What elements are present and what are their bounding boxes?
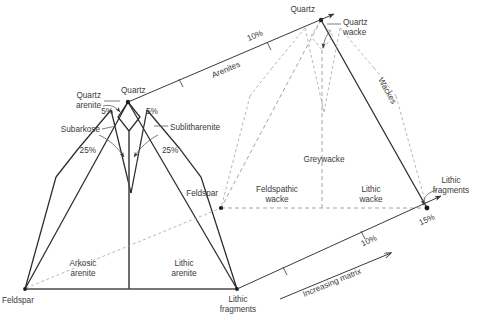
right-feldspathic-extend: [250, 68, 272, 96]
right-twentyfive-percent-label: 25%: [162, 146, 178, 155]
qfl-ternary-diagram: Quartz Quartz arenite Subarkose Sublitha…: [0, 0, 486, 320]
right-feldspathic-outer: [272, 28, 305, 68]
right-triangle-right-edge: [321, 20, 427, 208]
feldspathic-wacke-label-line2: wacke: [264, 195, 289, 204]
arenites-axis-label: Arenites: [210, 60, 241, 80]
right-five-percent-label: 5%: [146, 107, 158, 116]
left-arkosic-lower-left: [25, 177, 56, 289]
left-five-percent-label: 5%: [101, 107, 113, 116]
left-quartz-vertex-dot: [126, 100, 130, 104]
left-lithic-vertex-label-line1: Lithic: [228, 295, 247, 304]
connector-axes-group: [128, 14, 441, 299]
feldspathic-wacke-label-line1: Feldspathic: [256, 185, 298, 194]
wackes-axis-label: Wackes: [376, 76, 398, 106]
right-feldspathic-lower: [221, 96, 250, 208]
quartz-wacke-label-line1: Quartz: [343, 18, 368, 27]
arkosic-arenite-label-line2: arenite: [70, 269, 95, 278]
matrix-tick-1: [283, 267, 287, 275]
left-quartz-apex-label: Quartz: [121, 86, 146, 95]
matrix-fifteen-percent-label: 15%: [418, 212, 437, 227]
sublitharenite-arrow: [134, 135, 158, 157]
increasing-matrix-label: Increasing matrix: [302, 267, 363, 299]
left-feldspar-vertex-dot: [23, 287, 27, 291]
left-sublitharenite-extend: [180, 149, 201, 177]
left-five-percent-right-line: [128, 102, 140, 131]
right-triangle-group: [219, 18, 430, 211]
left-subarkose-extend: [56, 149, 78, 177]
right-feldspar-vertex-label: Feldspar: [186, 189, 218, 198]
quartz-wacke-label-line2: wacke: [342, 28, 367, 37]
right-quartz-apex-label: Quartz: [290, 5, 315, 14]
right-lithic-vertex-label-line2: fragments: [433, 186, 469, 195]
arenites-percent-label: 10%: [246, 28, 265, 43]
arenites-tick-1: [179, 79, 183, 87]
matrix-ten-percent-label: 10%: [360, 233, 379, 248]
right-lithic-vertex-dot: [425, 206, 430, 211]
left-feldspar-vertex-label: Feldspar: [2, 296, 34, 305]
left-subarkose-boundary: [111, 110, 131, 193]
lithic-wacke-label-line2: wacke: [358, 195, 383, 204]
quartz-wacke-arrow: [323, 30, 331, 48]
right-triangle-left-edge: [221, 20, 321, 208]
arkosic-arenite-label-line1: Arkosic: [70, 259, 97, 268]
subarkose-label: Subarkose: [61, 125, 101, 134]
sublitharenite-label: Sublitharenite: [170, 123, 221, 132]
lithic-arenite-label-line1: Lithic: [174, 259, 193, 268]
right-feldspar-vertex-dot: [219, 206, 223, 210]
left-lithic-vertex-label-line2: fragments: [220, 305, 256, 314]
arenites-tick-2: [267, 42, 271, 50]
arenites-axis-line: [128, 14, 334, 102]
left-sublitharenite-boundary: [131, 110, 147, 193]
figure-canvas: Quartz Quartz arenite Subarkose Sublitha…: [0, 0, 486, 320]
lithic-arenite-label-line2: arenite: [171, 269, 196, 278]
lithic-wacke-label-line1: Lithic: [361, 185, 380, 194]
quartz-arenite-label-line2: arenite: [76, 101, 101, 110]
greywacke-label: Greywacke: [304, 155, 345, 164]
left-twentyfive-percent-label: 25%: [80, 146, 96, 155]
right-lithic-vertex-label-line1: Lithic: [441, 176, 460, 185]
right-lithic-lower: [396, 96, 427, 208]
quartz-arenite-label-line1: Quartz: [76, 91, 101, 100]
